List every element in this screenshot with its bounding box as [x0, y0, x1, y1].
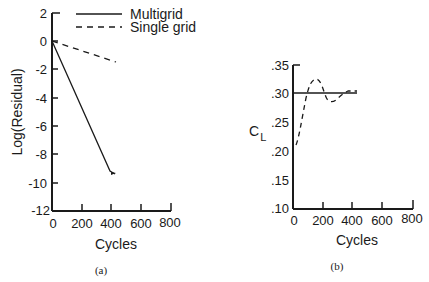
ytick-label: .30: [271, 86, 289, 101]
ytick-label: .10: [271, 201, 289, 216]
x-ticks-a: [82, 203, 171, 211]
caption-a: (a): [95, 264, 108, 277]
y-axis-label-a: Log(Residual): [9, 68, 25, 155]
series-multigrid-a: [52, 41, 115, 174]
x-ticks-b: [323, 200, 413, 209]
series-single-grid-b: [296, 79, 357, 145]
x-axis-label-b: Cycles: [336, 232, 378, 248]
caption-b: (b): [331, 260, 344, 273]
xtick-label: 400: [341, 213, 363, 228]
cl-main: C: [249, 123, 259, 139]
y-axis-label-b: CL: [249, 123, 266, 143]
ytick-label: .20: [271, 144, 289, 159]
ytick-label: 0: [40, 34, 47, 49]
ytick-label: -8: [35, 147, 47, 162]
ytick-label: -2: [35, 62, 47, 77]
panel-b: .35 .30 .25 .20 .15 .10 0 200 400 600 80…: [249, 58, 423, 273]
xtick-label: 600: [130, 216, 152, 231]
ytick-label: 2: [40, 6, 47, 21]
ytick-label: .25: [271, 115, 289, 130]
xtick-label: 200: [312, 213, 334, 228]
xtick-label: 800: [159, 215, 181, 230]
cl-sub: L: [260, 131, 266, 143]
ytick-label: -4: [35, 91, 47, 106]
ytick-label: -6: [35, 119, 47, 134]
figure: 2 0 -2 -4 -6 -8 -10 -12 0 200 400 600 80…: [0, 0, 429, 282]
panel-a: 2 0 -2 -4 -6 -8 -10 -12 0 200 400 600 80…: [9, 6, 196, 277]
ytick-label: .35: [271, 58, 289, 73]
ytick-label: .15: [271, 173, 289, 188]
x-axis-label-a: Cycles: [95, 236, 137, 252]
xtick-label: 400: [100, 216, 122, 231]
xtick-label: 600: [371, 213, 393, 228]
series-single-grid-a: [52, 41, 116, 62]
xtick-label: 0: [290, 213, 297, 228]
xtick-label: 800: [401, 211, 423, 226]
xtick-label: 200: [71, 216, 93, 231]
y-ticks-a: [52, 13, 60, 183]
xtick-label: 0: [49, 216, 56, 231]
legend-label-single-grid: Single grid: [130, 19, 196, 35]
ytick-label: -12: [31, 203, 50, 218]
ytick-label: -10: [28, 176, 47, 191]
